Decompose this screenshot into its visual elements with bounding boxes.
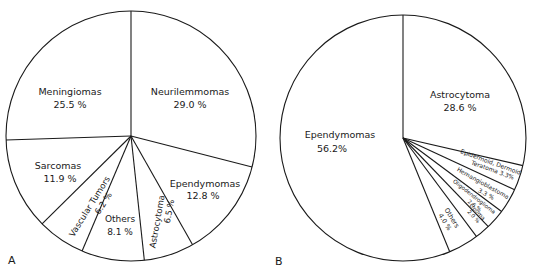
value-meningiomas: 25.5 %: [53, 99, 86, 110]
panel-label-b: B: [275, 255, 283, 268]
label-ependymomas-a: Ependymomas: [170, 178, 241, 189]
value-sarcomas: 11.9 %: [43, 173, 76, 184]
label-meningiomas: Meningiomas: [38, 86, 101, 97]
label-others-a: Others: [105, 214, 136, 224]
label-sarcomas: Sarcomas: [35, 160, 82, 171]
value-ependymomas-a: 12.8 %: [186, 190, 219, 201]
label-neurilemmomas: Neurilemmomas: [151, 86, 229, 97]
label-astrocytoma-b: Astrocytoma: [430, 89, 490, 100]
pie-chart-a: Neurilemmomas 29.0 % Ependymomas 12.8 % …: [6, 11, 256, 267]
value-others-a: 8.1 %: [107, 227, 133, 237]
panel-label-a: A: [8, 254, 16, 267]
figure: Neurilemmomas 29.0 % Ependymomas 12.8 % …: [0, 0, 534, 270]
value-astrocytoma-b: 28.6 %: [443, 102, 476, 113]
value-neurilemmomas: 29.0 %: [173, 99, 206, 110]
label-ependymomas-b: Ependymomas: [305, 129, 376, 140]
pie-chart-b: Astrocytoma 28.6 % Epidermoid, Dermoid T…: [275, 15, 526, 268]
value-ependymomas-b: 56.2%: [317, 143, 347, 154]
